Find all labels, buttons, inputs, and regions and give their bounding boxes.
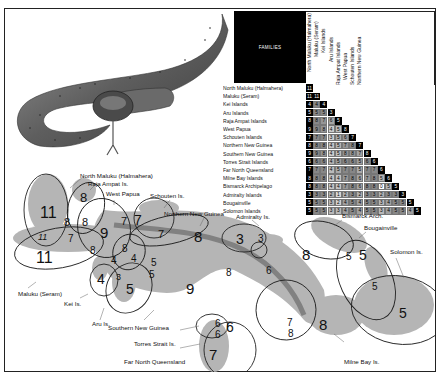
matrix-cell: 5 <box>313 109 320 116</box>
num-kei: 4 <box>97 271 105 287</box>
num-halmahera: 11 <box>40 204 57 221</box>
col-header: Aru Islands <box>328 37 335 85</box>
num-halm-seram: 11 <box>38 232 47 242</box>
matrix-cell: 6 <box>342 158 349 165</box>
num-raja: 8 <box>80 190 87 205</box>
num-raja-wp: 8 <box>82 216 88 228</box>
matrix-cell: 6 <box>306 158 313 165</box>
matrix-cell: 4 <box>328 125 335 132</box>
matrix-cell: 5 <box>335 134 342 141</box>
col-header: North Maluku (Halmahera) <box>306 13 313 85</box>
matrix-cell: 9 <box>313 150 320 157</box>
matrix-cell: 6 <box>328 117 335 124</box>
num-aru-nng-b: 5 <box>149 269 155 280</box>
matrix-cell: 11 <box>306 93 313 100</box>
row-label: West Papua <box>223 126 306 132</box>
matrix-cell: 7 <box>349 134 356 141</box>
matrix-cell: 4 <box>328 142 335 149</box>
matrix-cell: 8 <box>313 142 320 149</box>
matrix-cell: 5 <box>320 109 327 116</box>
num-kei-aru-a: 4 <box>111 255 117 266</box>
row-label: Raja Ampat Islands <box>223 118 306 124</box>
matrix-cell: 8 <box>306 142 313 149</box>
col-header: Northern New Guinea <box>356 69 363 85</box>
matrix-cell: 9 <box>306 150 313 157</box>
families-header: FAMILIES <box>234 11 306 83</box>
num-milne-nng: 7 <box>287 317 293 328</box>
matrix-cell: 4 <box>328 158 335 165</box>
matrix-cell: 9 <box>313 125 320 132</box>
matrix-cell: 11 <box>313 93 320 100</box>
matrix-cell: 5 <box>335 125 342 132</box>
num-adm-bis: 3 <box>258 233 264 244</box>
label-bougainville: Bougainville <box>364 224 398 231</box>
matrix-cell: 6 <box>349 158 356 165</box>
matrix-cell: 4 <box>328 150 335 157</box>
matrix-row: Torres Strait Islands6664566566 <box>223 158 421 166</box>
matrix-cell: 8 <box>349 150 356 157</box>
matrix-cell: 5 <box>335 142 342 149</box>
label-milne-bay: Milne Bay Is. <box>344 358 380 365</box>
num-fnq: 7 <box>209 346 217 363</box>
label-southern-new-guinea: Southern New Guinea <box>108 324 169 331</box>
num-wp: 9 <box>100 224 108 241</box>
row-label: Aru Islands <box>223 110 306 116</box>
col-header: West Papua <box>342 53 349 85</box>
matrix-cell: 7 <box>356 150 363 157</box>
label-solomon: Solomon Is. <box>390 248 423 255</box>
matrix-cell: 7 <box>356 142 363 149</box>
matrix-row: West Papua998458 <box>223 125 421 133</box>
row-label: Schouten Islands <box>223 134 306 140</box>
num-aru-kei: 3 <box>116 272 121 282</box>
num-wp-schouten: 7 <box>121 215 127 227</box>
matrix-cell: 8 <box>313 117 320 124</box>
num-torres-b: 6 <box>215 329 221 340</box>
matrix-cell: 7 <box>320 117 327 124</box>
matrix-cell: 6 <box>371 158 378 165</box>
matrix-row: Raja Ampat Islands88765 <box>223 117 421 125</box>
row-label: North Maluku (Halmahera) <box>223 85 306 91</box>
matrix-cell: 6 <box>320 158 327 165</box>
matrix-cell: 4 <box>306 101 313 108</box>
matrix-cell: 6 <box>342 134 349 141</box>
label-kei: Kei Is. <box>64 300 81 307</box>
matrix-cell: 7 <box>320 134 327 141</box>
matrix-cell: 6 <box>313 158 320 165</box>
matrix-row: North Maluku (Halmahera)11 <box>223 84 421 92</box>
num-aru-nng-a: 5 <box>151 257 157 268</box>
num-boug-sol: 5 <box>372 281 378 292</box>
num-kei-aru-b: 4 <box>131 253 137 264</box>
matrix-cell: 8 <box>349 142 356 149</box>
label-torres-strait: Torres Strait Is. <box>134 340 176 347</box>
row-label: Kei Islands <box>223 101 306 107</box>
num-seram: 11 <box>36 249 53 266</box>
matrix-cell: 6 <box>364 158 371 165</box>
num-milne-sng: 8 <box>288 328 294 339</box>
label-admiralty: Admiralty Is. <box>236 213 270 220</box>
label-far-north-queensland: Far North Queensland <box>124 358 186 365</box>
matrix-cell: 5 <box>335 117 342 124</box>
matrix-row: Aru Islands5553 <box>223 109 421 117</box>
num-raja-halm: 7 <box>68 233 74 244</box>
num-bis-nng: 6 <box>266 265 272 276</box>
num-admiralty: 3 <box>236 231 244 247</box>
matrix-cell: 5 <box>356 158 363 165</box>
row-label: Torres Strait Islands <box>223 159 306 165</box>
matrix-cell: 5 <box>335 158 342 165</box>
num-torres: 6 <box>226 319 234 335</box>
label-north-maluku: North Maluku (Halmahera) <box>80 172 153 179</box>
matrix-cell: 11 <box>306 84 313 91</box>
matrix-cell: 8 <box>320 150 327 157</box>
num-sng-nng: 8 <box>226 267 232 278</box>
num-aru: 5 <box>126 281 134 297</box>
matrix-cell: 3 <box>328 134 335 141</box>
num-schouten-nng: 7 <box>158 228 164 240</box>
num-boug: 5 <box>359 247 367 263</box>
label-raja-ampat: Raja Ampat Is. <box>88 180 129 187</box>
matrix-row: Northern New Guinea88845787 <box>223 141 421 149</box>
matrix-cell: 8 <box>342 150 349 157</box>
matrix-cell: 8 <box>364 150 371 157</box>
matrix-cell: 8 <box>342 125 349 132</box>
num-halm-raja: 8 <box>64 216 70 228</box>
region-map: 11 11 11 8 8 7 8 9 8 7 7 7 8 4 4 4 3 5 5… <box>4 170 436 372</box>
